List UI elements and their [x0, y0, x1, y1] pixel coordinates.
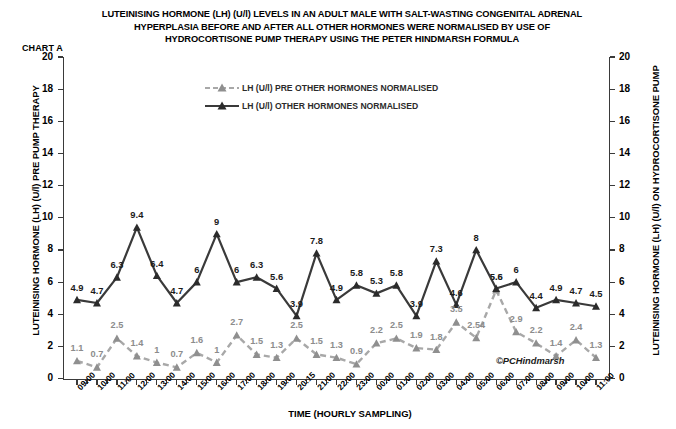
y-axis-left-tick-label: 0 — [27, 372, 53, 383]
series-marker-0 — [512, 328, 520, 335]
series-marker-1 — [213, 230, 221, 237]
data-point-label: 1.9 — [410, 330, 423, 340]
data-point-label: 1.5 — [250, 336, 263, 346]
y-axis-left-tick — [58, 282, 63, 283]
y-axis-left-tick-label: 16 — [27, 115, 53, 126]
series-marker-1 — [113, 273, 121, 280]
data-point-label: 1.4 — [130, 338, 143, 348]
series-marker-0 — [572, 336, 580, 343]
series-marker-0 — [233, 331, 241, 338]
y-axis-left-tick — [58, 56, 63, 57]
data-point-label: 1.4 — [550, 338, 563, 348]
series-marker-1 — [133, 223, 141, 230]
y-axis-left-tick-label: 4 — [27, 308, 53, 319]
data-point-label: 1.1 — [71, 343, 84, 353]
data-point-label: 6.4 — [150, 258, 163, 269]
series-marker-1 — [472, 246, 480, 253]
series-marker-0 — [113, 334, 121, 341]
data-point-label: 2.9 — [510, 314, 523, 324]
legend-label-pre: LH (U/l) PRE OTHER HORMONES NORMALISED — [242, 83, 438, 93]
y-axis-left-tick-label: 6 — [27, 276, 53, 287]
data-point-label: 5.6 — [270, 271, 283, 282]
data-point-label: 2.4 — [570, 322, 583, 332]
data-point-label: 1.3 — [270, 340, 283, 350]
y-axis-right-title: LUTEINISING HORMONE (LH) (U/l) ON HYDROC… — [650, 51, 661, 371]
series-marker-1 — [512, 278, 520, 285]
data-point-label: 4.7 — [90, 285, 103, 296]
series-marker-1 — [352, 281, 360, 288]
y-axis-right-tick — [610, 89, 615, 90]
y-axis-left-tick-label: 8 — [27, 243, 53, 254]
series-marker-0 — [452, 318, 460, 325]
data-point-label: 9 — [214, 216, 219, 227]
y-axis-right-tick — [610, 217, 615, 218]
y-axis-right-tick-label: 16 — [619, 115, 645, 126]
data-point-label: 4.9 — [70, 282, 83, 293]
data-point-label: 2.54 — [467, 320, 485, 330]
series-marker-0 — [193, 349, 201, 356]
data-point-label: 7.3 — [430, 243, 443, 254]
y-axis-left-tick-label: 20 — [27, 51, 53, 62]
data-point-label: 2.2 — [370, 325, 383, 335]
y-axis-right-tick-label: 6 — [619, 276, 645, 287]
data-point-label: 2.7 — [230, 317, 243, 327]
y-axis-right-tick — [610, 249, 615, 250]
data-point-label: 6 — [514, 264, 519, 275]
y-axis-left-tick — [58, 217, 63, 218]
y-axis-left-tick-label: 18 — [27, 83, 53, 94]
data-point-label: 8 — [474, 232, 479, 243]
data-point-label: 5.6 — [490, 271, 503, 282]
y-axis-left-tick — [58, 89, 63, 90]
legend-label-post: LH (U/l) OTHER HORMONES NORMALISED — [242, 101, 418, 111]
series-marker-0 — [372, 339, 380, 346]
data-point-label: 4.7 — [570, 285, 583, 296]
series-marker-1 — [193, 278, 201, 285]
data-point-label: 5.8 — [350, 267, 363, 278]
data-point-label: 1.8 — [430, 332, 443, 342]
y-axis-right-tick-label: 20 — [619, 51, 645, 62]
y-axis-left-tick-label: 14 — [27, 147, 53, 158]
data-point-label: 6.3 — [250, 259, 263, 270]
y-axis-left-tick — [58, 314, 63, 315]
data-point-label: 1.3 — [590, 340, 603, 350]
data-point-label: 7.8 — [310, 235, 323, 246]
chart-title-line-2: HYPERPLASIA BEFORE AND AFTER ALL OTHER H… — [42, 21, 642, 34]
data-point-label: 6 — [194, 264, 199, 275]
data-point-label: 4.9 — [330, 282, 343, 293]
y-axis-right-tick-label: 14 — [619, 147, 645, 158]
legend-item-post: LH (U/l) OTHER HORMONES NORMALISED — [205, 98, 438, 113]
y-axis-right-tick — [610, 56, 615, 57]
y-axis-right-tick-label: 10 — [619, 211, 645, 222]
y-axis-left-tick — [58, 378, 63, 379]
y-axis-left-tick — [58, 346, 63, 347]
y-axis-right-tick — [610, 282, 615, 283]
data-point-label: 6.3 — [110, 259, 123, 270]
y-axis-right-tick-label: 4 — [619, 308, 645, 319]
y-axis-left-tick-label: 10 — [27, 211, 53, 222]
y-axis-right-tick — [610, 346, 615, 347]
data-point-label: 4.9 — [550, 282, 563, 293]
series-marker-1 — [313, 249, 321, 256]
data-point-label: 1.3 — [330, 340, 343, 350]
y-axis-right-tick-label: 0 — [619, 372, 645, 383]
legend-swatch-pre-icon — [205, 82, 239, 94]
chart-title-line-3: HYDROCORTISONE PUMP THERAPY USING THE PE… — [42, 33, 642, 46]
data-point-label: 0.9 — [350, 346, 363, 356]
y-axis-right-tick — [610, 121, 615, 122]
data-point-label: 9.4 — [130, 209, 143, 220]
data-point-label: 4.5 — [589, 288, 602, 299]
y-axis-left-tick-label: 12 — [27, 179, 53, 190]
data-point-label: 0.7 — [91, 349, 104, 359]
y-axis-left-tick — [58, 153, 63, 154]
data-point-label: 6 — [234, 264, 239, 275]
y-axis-right-tick — [610, 185, 615, 186]
y-axis-left-tick — [58, 249, 63, 250]
data-point-label: 1 — [154, 345, 159, 355]
data-point-label: 2.5 — [290, 320, 303, 330]
data-point-label: 1 — [214, 345, 219, 355]
y-axis-right-tick-label: 12 — [619, 179, 645, 190]
chart-title-line-1: LUTEINISING HORMONE (LH) (U/l) LEVELS IN… — [42, 8, 642, 21]
data-point-label: 1.5 — [310, 336, 323, 346]
data-point-label: 2.5 — [390, 320, 403, 330]
data-point-label: 3.9 — [290, 298, 303, 309]
